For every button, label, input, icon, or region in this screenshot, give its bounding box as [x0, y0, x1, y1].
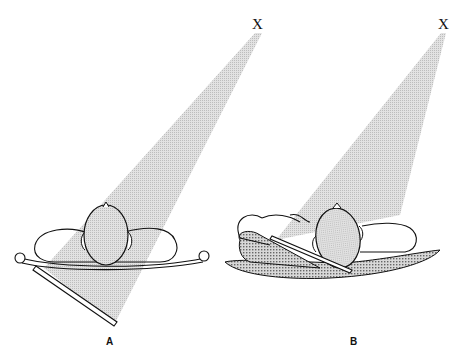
head-a [84, 205, 128, 265]
xray-source-label-a: X [252, 16, 263, 33]
bar-end-left-a [15, 253, 25, 263]
bar-end-right-a [199, 251, 209, 261]
panel-label-a: A [106, 336, 113, 347]
xray-beam-b [276, 33, 446, 240]
panel-label-b: B [350, 336, 357, 347]
xray-beam-a [44, 33, 262, 325]
xray-source-label-b: X [438, 16, 449, 33]
panel-b [225, 33, 446, 278]
figure-canvas [0, 0, 458, 357]
panel-a [15, 33, 262, 326]
